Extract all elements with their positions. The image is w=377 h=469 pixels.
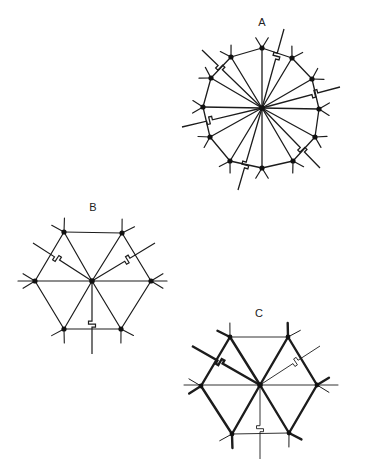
spoke-line bbox=[262, 108, 319, 109]
vertex-node bbox=[257, 382, 263, 388]
vertex-node bbox=[208, 75, 213, 80]
spoke-line-thick bbox=[230, 337, 260, 385]
bent-spoke bbox=[262, 108, 320, 168]
vertex-node bbox=[227, 158, 232, 163]
vertex-node bbox=[200, 104, 205, 109]
vertex-node bbox=[61, 326, 66, 331]
hexagon-edge bbox=[64, 232, 122, 233]
vertex-node bbox=[207, 134, 212, 139]
bent-spoke bbox=[33, 243, 92, 281]
bent-spoke bbox=[192, 346, 260, 385]
hexagon-edge-thick bbox=[288, 337, 317, 385]
spoke-line-thick bbox=[260, 337, 288, 385]
bent-spoke bbox=[260, 346, 320, 385]
figure-c-hexagon-bold bbox=[184, 323, 338, 459]
vertex-node bbox=[119, 230, 124, 235]
vertex-node bbox=[287, 431, 292, 436]
hexagon-edge bbox=[35, 281, 64, 329]
diagram-canvas bbox=[0, 0, 377, 469]
hexagon-edge-thin bbox=[232, 433, 289, 434]
vertex-node bbox=[290, 158, 295, 163]
spoke-line-thick bbox=[260, 385, 289, 433]
bent-spoke bbox=[92, 243, 155, 281]
spoke-line-thick bbox=[232, 385, 260, 434]
figure-b-hexagon bbox=[18, 218, 167, 354]
hexagon-edge-thick bbox=[289, 385, 317, 433]
vertex-node bbox=[148, 278, 153, 283]
spoke-line bbox=[64, 232, 92, 281]
vertex-node bbox=[228, 54, 233, 59]
hexagon-edge-thick bbox=[201, 386, 232, 434]
vertex-node bbox=[32, 278, 37, 283]
vertex-node bbox=[312, 134, 317, 139]
spoke-line bbox=[92, 281, 121, 329]
vertex-node bbox=[316, 106, 321, 111]
polygon-edge bbox=[315, 109, 319, 137]
bent-spoke bbox=[238, 108, 262, 190]
vertex-node bbox=[228, 335, 233, 340]
bent-spoke bbox=[257, 385, 264, 459]
figure-a-dodecagon bbox=[182, 29, 340, 190]
vertex-node bbox=[315, 383, 320, 388]
bent-spoke bbox=[182, 108, 262, 127]
figure-c-label: C bbox=[255, 307, 263, 319]
bent-spoke bbox=[262, 29, 284, 108]
polygon-edge bbox=[292, 58, 312, 79]
figure-a-label: A bbox=[258, 16, 265, 28]
spoke-line bbox=[92, 233, 122, 281]
vertex-node bbox=[259, 45, 264, 50]
vertex-node bbox=[309, 76, 314, 81]
polygon-edge bbox=[203, 78, 211, 107]
polygon-edge bbox=[262, 161, 293, 168]
spoke-line bbox=[64, 281, 92, 329]
vertex-node bbox=[259, 165, 264, 170]
spoke-line bbox=[203, 107, 262, 108]
vertex-node bbox=[286, 335, 291, 340]
vertex-node bbox=[289, 55, 294, 60]
vertex-node bbox=[259, 105, 265, 111]
figure-b-label: B bbox=[89, 201, 96, 213]
vertex-node bbox=[230, 432, 235, 437]
polygon-edge bbox=[231, 48, 262, 57]
polygon-edge bbox=[210, 137, 230, 161]
vertex-node bbox=[89, 278, 95, 284]
hexagon-edge bbox=[121, 281, 151, 329]
spoke-line bbox=[230, 108, 262, 161]
vertex-node bbox=[61, 229, 66, 234]
bent-spoke bbox=[262, 87, 340, 108]
vertex-node bbox=[199, 384, 204, 389]
vertex-node bbox=[118, 326, 123, 331]
bent-spoke bbox=[89, 281, 96, 354]
